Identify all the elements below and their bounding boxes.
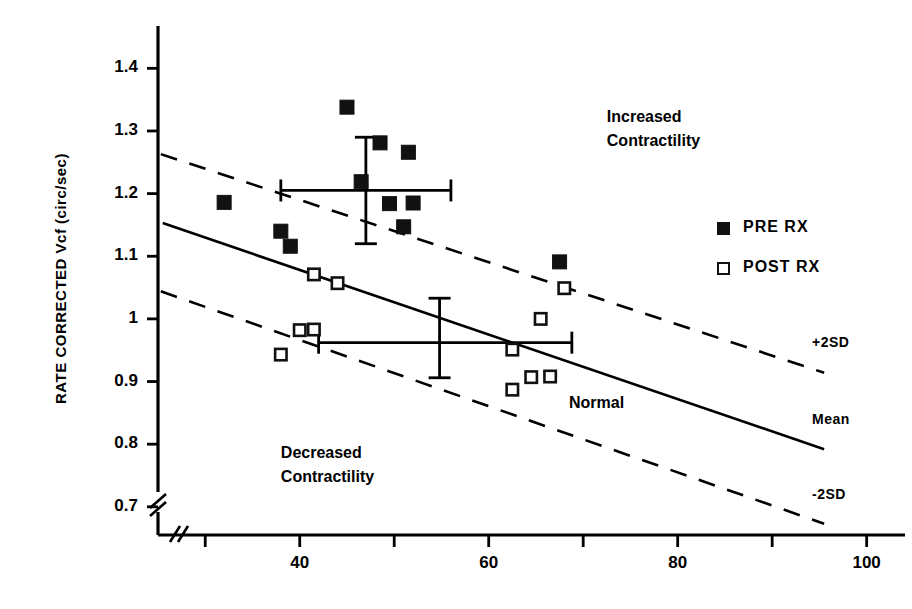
y-tick-label: 1.3 — [78, 120, 138, 140]
plot-canvas — [0, 0, 912, 609]
legend-swatch-post-rx — [717, 262, 730, 275]
annotation-line: Decreased — [281, 441, 374, 465]
data-point-pre-rx[interactable] — [373, 136, 387, 150]
data-point-pre-rx[interactable] — [406, 196, 420, 210]
y-axis-title: RATE CORRECTED Vcf (circ/sec) — [52, 69, 69, 489]
data-point-pre-rx[interactable] — [397, 220, 411, 234]
annotation-line: Increased — [607, 105, 700, 129]
legend-swatch-pre-rx — [717, 222, 730, 235]
annotation-normal: Normal — [569, 391, 624, 415]
data-point-post-rx[interactable] — [559, 282, 570, 293]
x-tick-label: 80 — [648, 553, 708, 573]
data-point-pre-rx[interactable] — [340, 100, 354, 114]
data-point-post-rx[interactable] — [507, 344, 518, 355]
band-label-mean: Mean — [812, 411, 850, 427]
y-tick-label: 1.2 — [78, 183, 138, 203]
x-tick-label: 60 — [459, 553, 519, 573]
x-tick-label: 40 — [270, 553, 330, 573]
data-point-pre-rx[interactable] — [553, 255, 567, 269]
data-point-pre-rx[interactable] — [354, 175, 368, 189]
reference-line-mean — [163, 223, 824, 449]
y-tick-label: 1 — [78, 308, 138, 328]
x-tick-label: 100 — [837, 553, 897, 573]
data-point-post-rx[interactable] — [507, 384, 518, 395]
data-point-post-rx[interactable] — [294, 324, 305, 335]
annotation-line: Contractility — [607, 129, 700, 153]
annotation-line: Normal — [569, 391, 624, 415]
band-label-2sd: +2SD — [812, 334, 849, 350]
data-point-pre-rx[interactable] — [382, 197, 396, 211]
y-tick-label: 1.4 — [78, 57, 138, 77]
band-label--2sd: -2SD — [812, 486, 846, 502]
data-point-post-rx[interactable] — [308, 269, 319, 280]
annotation-increased-contractility: IncreasedContractility — [607, 105, 700, 153]
data-point-post-rx[interactable] — [308, 324, 319, 335]
data-point-post-rx[interactable] — [332, 277, 343, 288]
annotation-line: Contractility — [281, 465, 374, 489]
y-tick-label: 1.1 — [78, 245, 138, 265]
data-point-pre-rx[interactable] — [274, 224, 288, 238]
annotation-decreased-contractility: DecreasedContractility — [281, 441, 374, 489]
data-point-pre-rx[interactable] — [401, 145, 415, 159]
data-point-post-rx[interactable] — [544, 371, 555, 382]
y-tick-label: 0.7 — [78, 496, 138, 516]
legend-label-pre-rx: PRE RX — [743, 218, 809, 236]
reference-line--2sd — [161, 291, 824, 523]
data-point-post-rx[interactable] — [526, 371, 537, 382]
data-point-pre-rx[interactable] — [283, 239, 297, 253]
data-point-post-rx[interactable] — [535, 313, 546, 324]
data-point-pre-rx[interactable] — [217, 195, 231, 209]
legend-label-post-rx: POST RX — [743, 258, 820, 276]
data-point-post-rx[interactable] — [275, 349, 286, 360]
y-tick-label: 0.9 — [78, 371, 138, 391]
y-tick-label: 0.8 — [78, 433, 138, 453]
chart-figure: RATE CORRECTED Vcf (circ/sec) 0.70.80.91… — [0, 0, 912, 609]
